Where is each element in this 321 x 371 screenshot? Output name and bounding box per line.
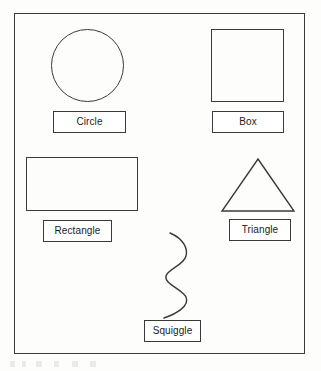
box-caption-box: Box: [212, 111, 284, 133]
rectangle-shape-icon: [26, 157, 138, 211]
square-shape-icon: [211, 29, 284, 102]
triangle-label: Triangle: [242, 225, 279, 235]
squiggle-label: Squiggle: [153, 326, 193, 336]
diagram-frame: Circle Box Rectangle Triangle Squiggle: [14, 13, 305, 354]
squiggle-caption-box: Squiggle: [144, 320, 201, 342]
circle-caption-box: Circle: [53, 111, 126, 133]
rectangle-caption-box: Rectangle: [43, 220, 112, 242]
triangle-outline-svg: [219, 155, 297, 215]
box-label: Box: [239, 117, 257, 127]
triangle-caption-box: Triangle: [229, 219, 291, 241]
triangle-shape-icon: [219, 155, 297, 215]
squiggle-curve-svg: [156, 229, 204, 324]
circle-label: Circle: [76, 117, 102, 127]
squiggle-shape-icon: [156, 229, 204, 324]
rectangle-label: Rectangle: [55, 226, 101, 236]
circle-shape-icon: [51, 29, 124, 102]
scan-artifact-strip: [6, 361, 126, 367]
